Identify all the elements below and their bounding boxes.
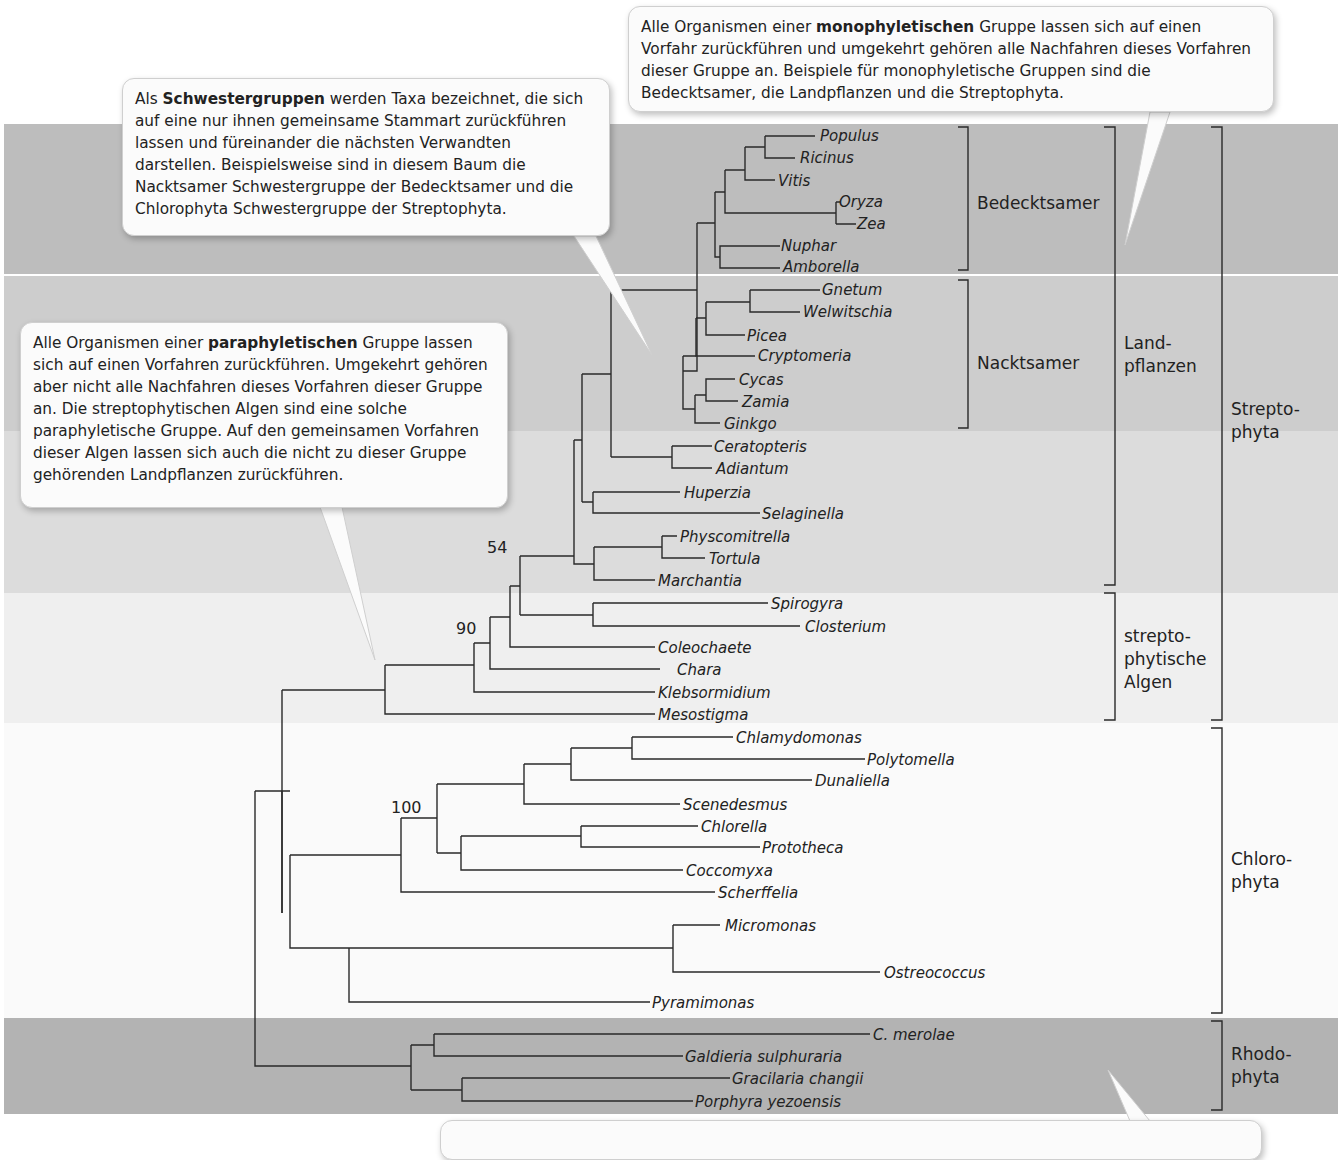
group-brackets xyxy=(958,127,1222,1110)
support-value-54: 54 xyxy=(487,538,507,557)
callout-bottom xyxy=(440,1120,1262,1160)
callout-text: Alle Organismen einer xyxy=(641,18,816,36)
taxon-closterium: Closterium xyxy=(805,618,886,636)
callout-monophyletic: Alle Organismen einer monophyletischen G… xyxy=(628,6,1274,112)
group-label-line: pflanzen xyxy=(1124,355,1197,378)
taxon-c-merolae: C. merolae xyxy=(873,1026,955,1044)
taxon-zea: Zea xyxy=(856,215,886,233)
taxon-klebsormidium: Klebsormidium xyxy=(658,684,771,702)
group-label-line: phytische xyxy=(1124,648,1206,671)
group-label-line: Algen xyxy=(1124,671,1206,694)
group-label-line: Land- xyxy=(1124,332,1197,355)
bracket-nacktsamer xyxy=(958,280,968,428)
taxon-welwitschia: Welwitschia xyxy=(803,303,892,321)
taxon-labels: Populus Ricinus Vitis Oryza Zea Nuphar A… xyxy=(652,127,986,1111)
taxon-polytomella: Polytomella xyxy=(867,751,955,769)
taxon-gracilaria-changii: Gracilaria changii xyxy=(732,1070,864,1088)
group-label-bedecktsamer: Bedecktsamer xyxy=(977,192,1100,215)
group-label-line: phyta xyxy=(1231,1066,1292,1089)
taxon-mesostigma: Mesostigma xyxy=(658,706,748,724)
callout-text: werden Taxa bezeichnet, die sich auf ein… xyxy=(135,90,583,218)
tree-branches xyxy=(255,136,880,1101)
taxon-ricinus: Ricinus xyxy=(800,149,854,167)
taxon-ostreococcus: Ostreococcus xyxy=(884,964,986,982)
callout-keyword: Schwestergruppen xyxy=(163,90,325,108)
group-label-line: phyta xyxy=(1231,421,1300,444)
group-label-line: Rhodo- xyxy=(1231,1043,1292,1066)
callout-paraphyletic: Alle Organismen einer paraphyletischen G… xyxy=(20,322,508,508)
taxon-gnetum: Gnetum xyxy=(822,281,882,299)
taxon-amborella: Amborella xyxy=(782,258,860,276)
taxon-tortula: Tortula xyxy=(709,550,760,568)
taxon-cycas: Cycas xyxy=(739,371,784,389)
group-label-rhodophyta: Rhodo- phyta xyxy=(1231,1043,1292,1089)
taxon-spirogyra: Spirogyra xyxy=(771,595,843,613)
taxon-nuphar: Nuphar xyxy=(781,237,837,255)
callout-text: Alle Organismen einer xyxy=(33,334,208,352)
group-label-line: Strepto- xyxy=(1231,398,1300,421)
callout-text: Gruppe lassen sich auf einen Vorfahren z… xyxy=(33,334,488,484)
taxon-galdieria-sulphuraria: Galdieria sulphuraria xyxy=(685,1048,842,1066)
group-label-landpflanzen: Land- pflanzen xyxy=(1124,332,1197,378)
group-label-line: Chloro- xyxy=(1231,848,1292,871)
taxon-micromonas: Micromonas xyxy=(725,917,816,935)
taxon-ceratopteris: Ceratopteris xyxy=(714,438,807,456)
taxon-ginkgo: Ginkgo xyxy=(724,415,777,433)
taxon-cryptomeria: Cryptomeria xyxy=(758,347,851,365)
taxon-physcomitrella: Physcomitrella xyxy=(680,528,790,546)
group-label-nacktsamer: Nacktsamer xyxy=(977,352,1079,375)
taxon-dunaliella: Dunaliella xyxy=(815,772,890,790)
group-label-streptophytische-algen: strepto- phytische Algen xyxy=(1124,625,1206,694)
bracket-chlorophyta xyxy=(1211,728,1222,1013)
support-value-90: 90 xyxy=(456,619,476,638)
bracket-landpflanzen xyxy=(1104,127,1115,585)
callout-keyword: monophyletischen xyxy=(816,18,974,36)
callout-keyword: paraphyletischen xyxy=(208,334,357,352)
taxon-marchantia: Marchantia xyxy=(658,572,742,590)
callout-text: Als xyxy=(135,90,163,108)
taxon-zamia: Zamia xyxy=(741,393,789,411)
callout-sister-groups: Als Schwestergruppen werden Taxa bezeich… xyxy=(122,78,610,236)
group-label-streptophyta: Strepto- phyta xyxy=(1231,398,1300,444)
taxon-huperzia: Huperzia xyxy=(684,484,751,502)
taxon-selaginella: Selaginella xyxy=(762,505,844,523)
bracket-rhodophyta xyxy=(1211,1021,1222,1110)
taxon-oryza: Oryza xyxy=(839,193,883,211)
taxon-porphyra-yezoensis: Porphyra yezoensis xyxy=(695,1093,841,1111)
taxon-vitis: Vitis xyxy=(778,172,810,190)
taxon-pyramimonas: Pyramimonas xyxy=(652,994,755,1012)
group-label-chlorophyta: Chloro- phyta xyxy=(1231,848,1292,894)
bracket-bedecktsamer xyxy=(958,127,968,270)
taxon-coccomyxa: Coccomyxa xyxy=(686,862,773,880)
group-label-line: strepto- xyxy=(1124,625,1206,648)
support-value-100: 100 xyxy=(391,798,422,817)
taxon-prototheca: Prototheca xyxy=(762,839,844,857)
taxon-scherffelia: Scherffelia xyxy=(718,884,798,902)
taxon-populus: Populus xyxy=(820,127,879,145)
group-label-line: phyta xyxy=(1231,871,1292,894)
taxon-adiantum: Adiantum xyxy=(715,460,789,478)
taxon-chlamydomonas: Chlamydomonas xyxy=(736,729,862,747)
bracket-streptophytische-algen xyxy=(1104,593,1115,720)
taxon-chlorella: Chlorella xyxy=(701,818,767,836)
taxon-chara: Chara xyxy=(677,661,722,679)
bracket-streptophyta xyxy=(1211,127,1222,720)
taxon-scenedesmus: Scenedesmus xyxy=(683,796,787,814)
taxon-picea: Picea xyxy=(747,327,787,345)
taxon-coleochaete: Coleochaete xyxy=(658,639,752,657)
